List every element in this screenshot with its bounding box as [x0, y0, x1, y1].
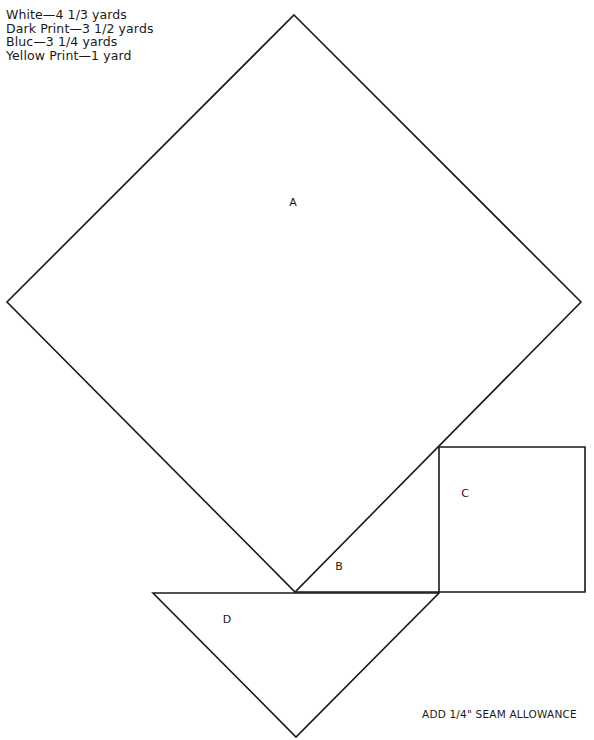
piece-b-label: B — [335, 561, 343, 572]
piece-c-square — [439, 447, 585, 592]
piece-a-diamond — [7, 15, 581, 592]
piece-c-label: C — [461, 488, 469, 499]
piece-d-label: D — [223, 614, 231, 625]
quilt-pattern-diagram — [0, 0, 594, 740]
piece-a-label: A — [289, 197, 297, 208]
seam-allowance-note: ADD 1/4" SEAM ALLOWANCE — [422, 708, 577, 720]
piece-d-triangle — [153, 593, 439, 737]
